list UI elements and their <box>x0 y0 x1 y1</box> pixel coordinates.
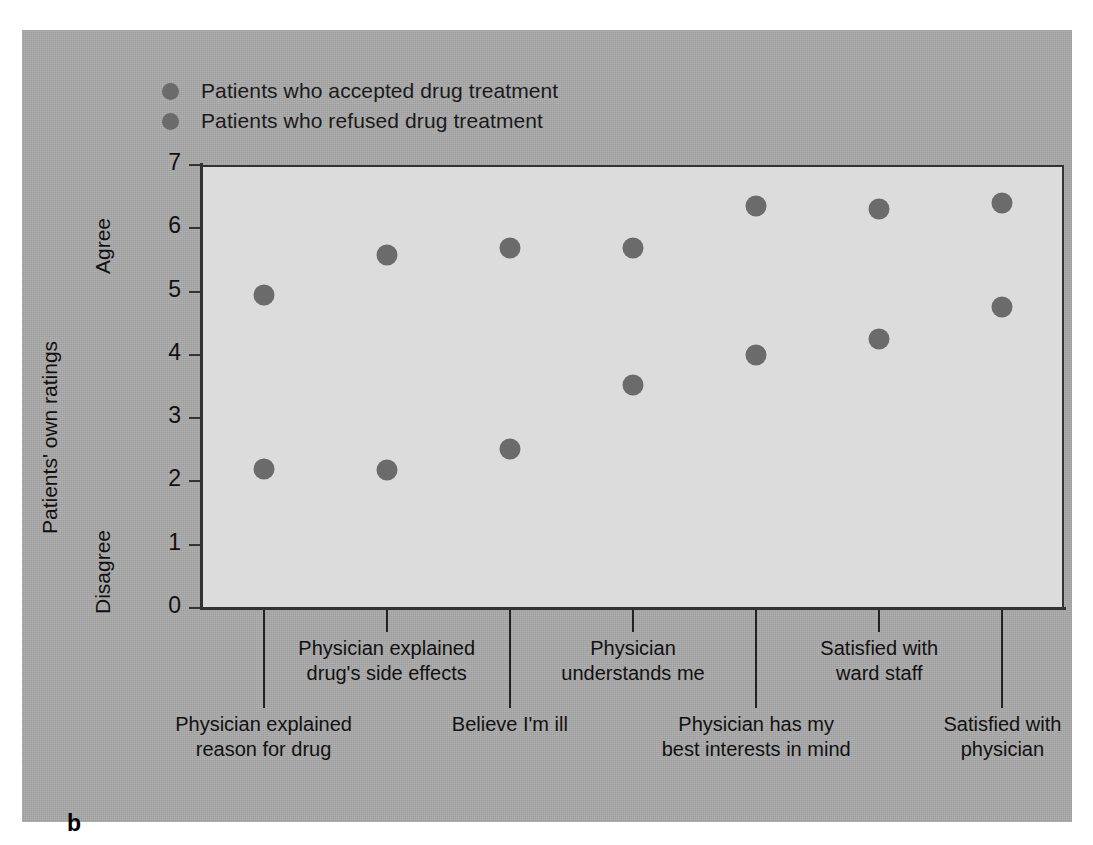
category-label-line: Physician has my <box>662 712 851 737</box>
data-point <box>253 284 274 305</box>
y-tick-4 <box>189 354 200 356</box>
data-point <box>992 192 1013 213</box>
y-tick-0 <box>189 607 200 609</box>
category-label-line: best interests in mind <box>662 737 851 762</box>
data-point <box>746 196 767 217</box>
category-label-line: Satisfied with <box>820 636 938 661</box>
category-label: Satisfied withphysician <box>944 712 1062 762</box>
circle-marker-icon <box>162 83 179 100</box>
data-point <box>869 329 890 350</box>
y-tick-label-1: 1 <box>153 529 181 556</box>
y-tick-label-6: 6 <box>153 212 181 239</box>
category-label-line: Physician <box>561 636 704 661</box>
y-tick-label-3: 3 <box>153 402 181 429</box>
category-label-line: Physician explained <box>298 636 475 661</box>
legend-item-accepted: Patients who accepted drug treatment <box>162 76 558 106</box>
data-point <box>253 458 274 479</box>
category-label: Physician explainedreason for drug <box>175 712 352 762</box>
y-tick-5 <box>189 291 200 293</box>
category-leader-line <box>1001 610 1003 708</box>
category-label-line: drug's side effects <box>298 661 475 686</box>
category-label: Physician explaineddrug's side effects <box>298 636 475 686</box>
figure-panel: Patients who accepted drug treatment Pat… <box>22 30 1072 822</box>
y-tick-3 <box>189 417 200 419</box>
y-tick-7 <box>189 164 200 166</box>
y-axis-disagree-label: Disagree <box>91 530 115 614</box>
data-point <box>499 439 520 460</box>
category-label: Believe I'm ill <box>452 712 568 737</box>
category-label-line: physician <box>944 737 1062 762</box>
chart-legend: Patients who accepted drug treatment Pat… <box>162 76 558 136</box>
y-tick-6 <box>189 227 200 229</box>
category-label: Physicianunderstands me <box>561 636 704 686</box>
data-point <box>869 199 890 220</box>
y-tick-label-2: 2 <box>153 465 181 492</box>
category-label-line: understands me <box>561 661 704 686</box>
y-axis-title: Patients' own ratings <box>38 341 62 534</box>
category-label: Physician has mybest interests in mind <box>662 712 851 762</box>
data-point <box>499 237 520 258</box>
data-point <box>376 460 397 481</box>
category-label: Satisfied withward staff <box>820 636 938 686</box>
category-leader-line <box>878 610 880 632</box>
data-point <box>992 297 1013 318</box>
legend-label-refused: Patients who refused drug treatment <box>201 109 543 133</box>
data-point <box>376 244 397 265</box>
category-label-line: ward staff <box>820 661 938 686</box>
data-point <box>623 237 644 258</box>
y-tick-label-7: 7 <box>153 149 181 176</box>
category-label-line: Physician explained <box>175 712 352 737</box>
y-tick-2 <box>189 480 200 482</box>
category-leader-line <box>386 610 388 632</box>
category-leader-line <box>755 610 757 708</box>
category-label-line: Satisfied with <box>944 712 1062 737</box>
y-axis-agree-label: Agree <box>91 218 115 274</box>
category-leader-line <box>509 610 511 708</box>
legend-label-accepted: Patients who accepted drug treatment <box>201 79 558 103</box>
legend-item-refused: Patients who refused drug treatment <box>162 106 558 136</box>
data-point <box>623 374 644 395</box>
category-label-line: reason for drug <box>175 737 352 762</box>
y-tick-label-5: 5 <box>153 276 181 303</box>
panel-letter: b <box>67 810 81 837</box>
category-label-line: Believe I'm ill <box>452 712 568 737</box>
category-leader-line <box>263 610 265 708</box>
category-leader-line <box>632 610 634 632</box>
data-point <box>746 345 767 366</box>
y-tick-label-4: 4 <box>153 339 181 366</box>
circle-marker-icon <box>162 113 179 130</box>
y-tick-1 <box>189 544 200 546</box>
y-axis-line <box>200 163 203 610</box>
y-tick-label-0: 0 <box>153 592 181 619</box>
